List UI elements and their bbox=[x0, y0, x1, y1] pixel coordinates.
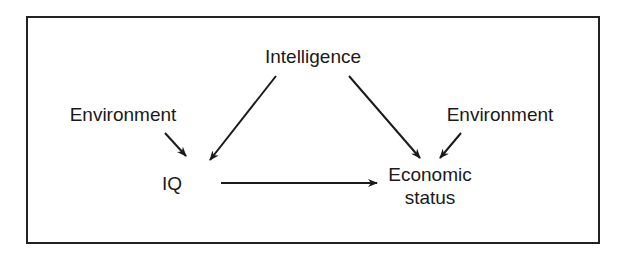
edge-environment-right-to-economic-status bbox=[440, 133, 461, 158]
edge-intelligence-to-economic-status bbox=[349, 76, 420, 158]
edge-intelligence-to-iq bbox=[210, 76, 276, 160]
edges-layer bbox=[0, 0, 625, 259]
edge-environment-left-to-iq bbox=[165, 133, 186, 156]
